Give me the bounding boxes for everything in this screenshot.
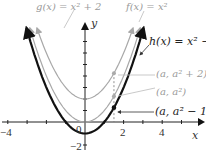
label-g: g(x) = x² + 2: [36, 2, 101, 12]
point-h: [112, 105, 117, 110]
origin-label: 0: [76, 124, 82, 135]
leader-f-label: [139, 11, 144, 22]
label-f: f(x) = x²: [126, 2, 168, 12]
label-point-f: (a, a²): [156, 87, 186, 97]
label-point-h: (a, a² − 1): [155, 106, 206, 117]
point-f: [112, 94, 116, 98]
y-axis-label: y: [91, 18, 97, 29]
y-tick-label-neg2: −2: [70, 141, 82, 152]
x-tick-label-2: 2: [120, 127, 126, 138]
x-tick-label-4: 4: [159, 127, 165, 138]
leader-h-label: [140, 45, 149, 55]
x-axis-label: x: [192, 130, 198, 141]
label-point-g: (a, a² + 2): [156, 69, 206, 79]
point-g: [112, 71, 116, 75]
leader-g-label: [64, 10, 74, 28]
label-h: h(x) = x² − 1: [149, 36, 206, 47]
x-tick-label-neg4: −4: [0, 127, 12, 138]
